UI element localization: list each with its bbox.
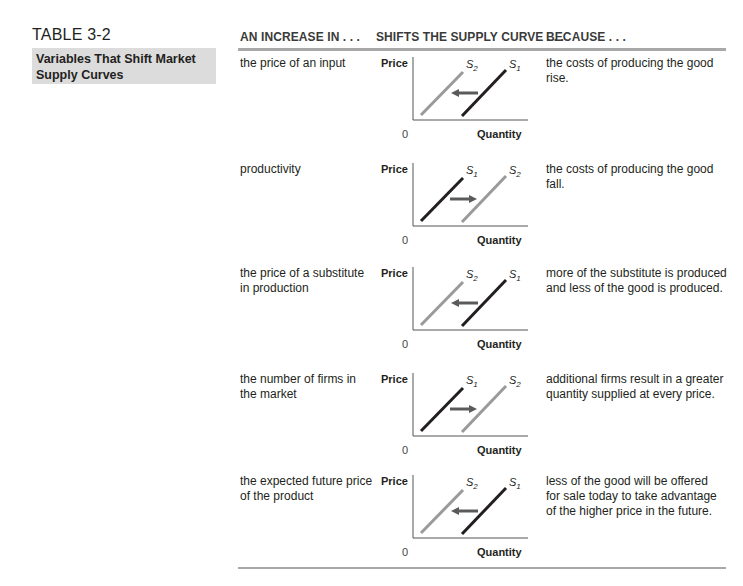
curve-label-left: S2 <box>466 268 478 283</box>
curve-label-left: S2 <box>466 476 478 491</box>
row-5-reason: less of the good will be offered for sal… <box>546 474 717 519</box>
price-axis-label: Price <box>381 163 408 175</box>
reason-text: of the higher price in the future. <box>546 504 717 519</box>
reason-text: quantity supplied at every price. <box>546 387 723 402</box>
row-5-variable: the expected future price of the product <box>240 474 372 504</box>
header-shifts-supply-curve: SHIFTS THE SUPPLY CURVE . . . <box>376 30 564 44</box>
table-label: TABLE 3-2 <box>32 26 111 44</box>
variable-text: the price of an input <box>240 56 345 71</box>
reason-text: for sale today to take advantage <box>546 489 717 504</box>
curve-label-left: S1 <box>466 374 478 389</box>
origin-label: 0 <box>402 234 408 246</box>
variable-text: the number of firms in <box>240 372 356 387</box>
quantity-axis-label: Quantity <box>477 128 522 140</box>
quantity-axis-label: Quantity <box>477 234 522 246</box>
quantity-axis-label: Quantity <box>477 444 522 456</box>
reason-text: less of the good will be offered <box>546 474 717 489</box>
reason-text: additional firms result in a greater <box>546 372 723 387</box>
curve-label-right: S2 <box>509 374 521 389</box>
origin-label: 0 <box>402 128 408 140</box>
row-1-supply-graph: Price S2 S1 0 Quantity <box>376 55 536 161</box>
header-an-increase-in: AN INCREASE IN . . . <box>240 30 360 44</box>
origin-label: 0 <box>402 546 408 558</box>
caption-line-2: Supply Curves <box>36 67 212 83</box>
row-3-variable: the price of a substitute in production <box>240 266 364 296</box>
origin-label: 0 <box>402 338 408 350</box>
row-3-reason: more of the substitute is produced and l… <box>546 266 727 296</box>
row-2-supply-graph: Price S1 S2 0 Quantity <box>376 161 536 267</box>
reason-text: the costs of producing the good <box>546 162 713 177</box>
reason-text: rise. <box>546 71 713 86</box>
row-2-reason: the costs of producing the good fall. <box>546 162 713 192</box>
header-rule <box>238 48 726 51</box>
row-4-supply-graph: Price S1 S2 0 Quantity <box>376 371 536 477</box>
price-axis-label: Price <box>381 475 408 487</box>
header-because: BECAUSE . . . <box>546 30 626 44</box>
variable-text: the price of a substitute <box>240 266 364 281</box>
price-axis-label: Price <box>381 267 408 279</box>
row-2-variable: productivity <box>240 162 301 177</box>
row-4-reason: additional firms result in a greater qua… <box>546 372 723 402</box>
variable-text: productivity <box>240 162 301 177</box>
variable-text: the market <box>240 387 356 402</box>
caption-line-1: Variables That Shift Market <box>36 51 212 67</box>
reason-text: and less of the good is produced. <box>546 281 727 296</box>
price-axis-label: Price <box>381 57 408 69</box>
table-caption: Variables That Shift Market Supply Curve… <box>32 48 216 84</box>
curve-label-right: S1 <box>509 476 521 491</box>
reason-text: more of the substitute is produced <box>546 266 727 281</box>
reason-text: the costs of producing the good <box>546 56 713 71</box>
variable-text: of the product <box>240 489 372 504</box>
curve-label-right: S1 <box>509 268 521 283</box>
row-4-variable: the number of firms in the market <box>240 372 356 402</box>
variable-text: in production <box>240 281 364 296</box>
quantity-axis-label: Quantity <box>477 338 522 350</box>
variable-text: the expected future price <box>240 474 372 489</box>
row-3-supply-graph: Price S2 S1 0 Quantity <box>376 265 536 371</box>
curve-label-right: S1 <box>509 58 521 73</box>
row-5-supply-graph: Price S2 S1 0 Quantity <box>376 473 536 579</box>
curve-label-left: S2 <box>466 58 478 73</box>
curve-label-right: S2 <box>509 164 521 179</box>
row-1-variable: the price of an input <box>240 56 345 71</box>
origin-label: 0 <box>402 444 408 456</box>
footer-rule <box>238 567 726 569</box>
row-1-reason: the costs of producing the good rise. <box>546 56 713 86</box>
quantity-axis-label: Quantity <box>477 546 522 558</box>
curve-label-left: S1 <box>466 164 478 179</box>
price-axis-label: Price <box>381 373 408 385</box>
reason-text: fall. <box>546 177 713 192</box>
